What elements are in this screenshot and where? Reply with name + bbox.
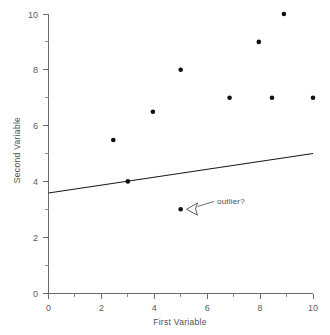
x-tick-label-6: 6 [205,303,210,313]
data-point [270,95,275,100]
data-points-group [111,12,315,212]
annotation-label-outlier: outlier? [217,197,245,206]
x-tick-label-8: 8 [258,303,263,313]
x-tick-label-4: 4 [152,303,157,313]
data-point [151,110,156,115]
data-point [311,95,316,100]
left-arrowhead-icon [187,203,198,215]
x-tick-label-10: 10 [308,303,318,313]
data-point [126,179,131,184]
x-tick-label-0: 0 [46,303,51,313]
x-axis-title: First Variable [153,317,207,327]
y-tick-label-6: 6 [33,121,38,131]
plot-canvas: 10 8 6 4 2 0 0 2 4 6 8 10 First Variable… [0,0,330,335]
x-axis-minor-ticks [75,294,287,298]
regression-trendline [49,154,314,194]
y-tick-label-4: 4 [33,177,38,187]
y-axis-title: Second Variable [12,117,22,183]
data-point [227,95,232,100]
scatter-plot-figure: 10 8 6 4 2 0 0 2 4 6 8 10 First Variable… [0,0,330,335]
y-tick-label-0: 0 [33,289,38,299]
data-point [178,68,183,73]
y-tick-label-2: 2 [33,233,38,243]
y-axis-minor-ticks [45,42,49,265]
outlier-annotation: outlier? [187,197,246,216]
data-point [282,12,287,17]
data-point [111,138,116,143]
annotation-leader-line [198,202,215,207]
y-tick-label-10: 10 [28,10,38,20]
data-point-outlier [178,207,183,212]
y-tick-label-8: 8 [33,65,38,75]
data-point [257,40,262,45]
x-tick-label-2: 2 [99,303,104,313]
